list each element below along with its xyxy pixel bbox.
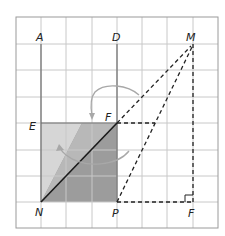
arrow-top-curve [91,86,139,116]
dashed-F-M [117,46,191,123]
label-F-top: F [105,111,112,124]
arrow-top-head [89,113,95,120]
label-M: M [186,31,196,44]
label-P: P [112,207,119,220]
label-D: D [112,31,120,44]
label-F-right: F [188,207,195,220]
label-N: N [35,206,43,219]
geometry-diagram: A D M E F N P F [0,0,225,236]
label-E: E [29,120,36,133]
label-A: A [35,31,44,44]
right-angle-marker [185,195,193,202]
